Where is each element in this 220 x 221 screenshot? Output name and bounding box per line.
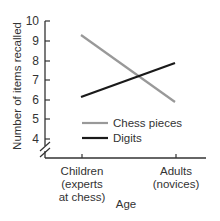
chart: 10 9 8 7 6 5 4 Number of items recalled … xyxy=(0,0,220,221)
y-tick-label: 5 xyxy=(32,112,39,126)
y-tick-label: 7 xyxy=(32,73,39,87)
legend-label-chess-pieces: Chess pieces xyxy=(113,117,182,129)
x-category-label-children: Children xyxy=(61,165,104,177)
y-axis-label: Number of items recalled xyxy=(11,22,23,150)
x-category-label-children: at chess) xyxy=(59,191,106,203)
y-tick-label: 9 xyxy=(32,34,39,48)
y-tick-label: 10 xyxy=(26,14,40,28)
x-category-label-children: (experts xyxy=(61,178,103,190)
x-category-label-adults: (novices) xyxy=(153,178,200,190)
legend-label-digits: Digits xyxy=(113,132,142,144)
y-tick-label: 6 xyxy=(32,93,39,107)
x-axis-label: Age xyxy=(116,198,136,210)
y-ticks xyxy=(45,21,50,139)
x-category-label-adults: Adults xyxy=(160,165,192,177)
y-tick-label: 4 xyxy=(32,132,39,146)
y-tick-label: 8 xyxy=(32,54,39,68)
